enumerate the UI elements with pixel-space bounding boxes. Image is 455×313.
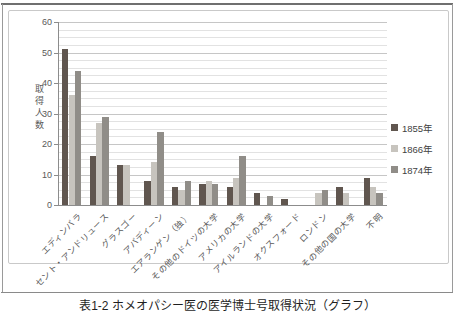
x-axis [58, 205, 387, 206]
minor-gridline [58, 98, 387, 99]
major-gridline [58, 22, 387, 23]
bar [157, 132, 163, 205]
y-tick-label: 30 [26, 109, 52, 119]
minor-gridline [58, 106, 387, 107]
minor-gridline [58, 68, 387, 69]
bar [343, 193, 349, 205]
bar [254, 193, 260, 205]
bar [185, 181, 191, 205]
major-gridline [58, 83, 387, 84]
minor-gridline [58, 91, 387, 92]
bar [212, 184, 218, 205]
legend-swatch-icon [391, 124, 398, 131]
x-category-label: 不明 [364, 210, 385, 231]
y-tick-mark [54, 175, 58, 176]
bar [75, 71, 81, 205]
minor-gridline [58, 37, 387, 38]
y-tick-mark [54, 53, 58, 54]
bar [322, 190, 328, 205]
chart-caption: 表1-2 ホメオパシー医の医学博士号取得状況（グラフ） [0, 296, 455, 313]
y-axis [58, 22, 59, 205]
minor-gridline [58, 45, 387, 46]
bar [281, 199, 287, 205]
chart-legend: 1855年1866年1874年 [391, 117, 433, 180]
minor-gridline [58, 30, 387, 31]
bar [239, 156, 245, 205]
major-gridline [58, 114, 387, 115]
legend-entry: 1866年 [391, 138, 433, 159]
y-tick-mark [54, 83, 58, 84]
legend-swatch-icon [391, 145, 398, 152]
y-tick-label: 0 [26, 200, 52, 210]
bar [267, 196, 273, 205]
y-tick-label: 40 [26, 78, 52, 88]
minor-gridline [58, 60, 387, 61]
legend-entry: 1855年 [391, 117, 433, 138]
bar [123, 165, 129, 205]
y-tick-mark [54, 114, 58, 115]
bar [102, 117, 108, 205]
y-tick-mark [54, 22, 58, 23]
major-gridline [58, 53, 387, 54]
legend-label: 1874年 [402, 163, 433, 177]
y-tick-label: 50 [26, 48, 52, 58]
minor-gridline [58, 75, 387, 76]
y-tick-mark [54, 144, 58, 145]
y-tick-label: 10 [26, 170, 52, 180]
bar [376, 193, 382, 205]
legend-swatch-icon [391, 166, 398, 173]
y-tick-label: 60 [26, 17, 52, 27]
y-tick-mark [54, 205, 58, 206]
legend-label: 1866年 [402, 142, 433, 156]
y-tick-label: 20 [26, 139, 52, 149]
legend-entry: 1874年 [391, 159, 433, 180]
legend-label: 1855年 [402, 121, 433, 135]
